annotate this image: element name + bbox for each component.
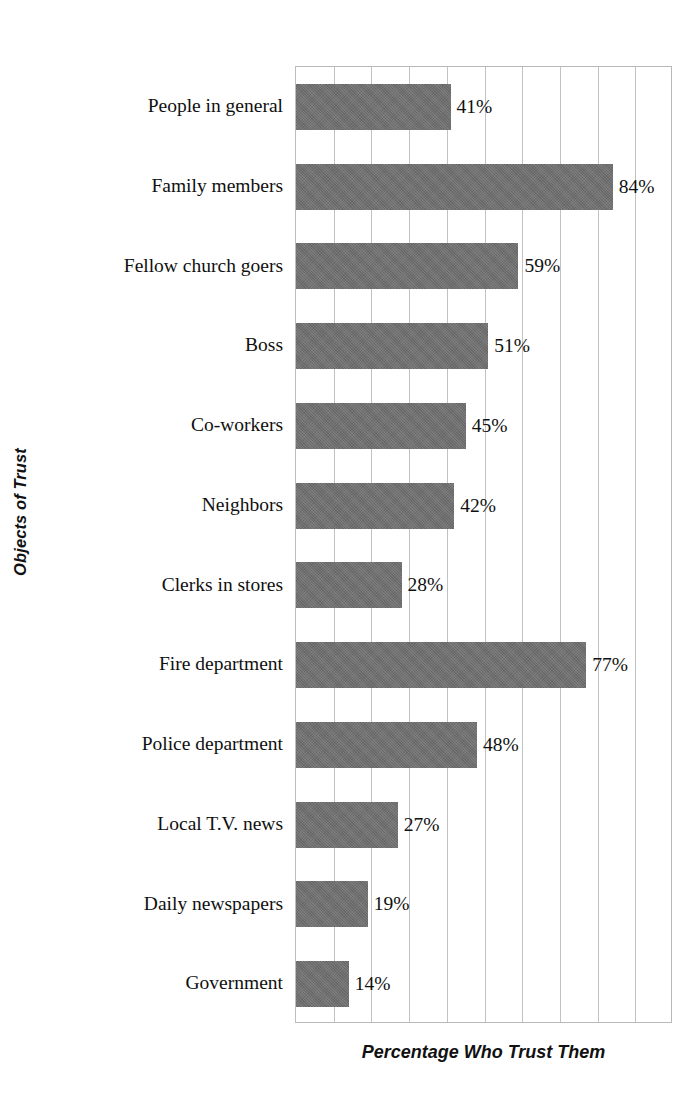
bar-row[interactable]: 28%: [296, 562, 671, 608]
category-label: Family members: [151, 175, 283, 196]
bar[interactable]: [296, 562, 402, 608]
y-axis-title: Objects of Trust: [0, 0, 40, 1098]
gridline: [635, 67, 636, 1022]
category-label: Clerks in stores: [162, 574, 283, 595]
category-label-row: Fire department: [40, 641, 293, 687]
gridline: [371, 67, 372, 1022]
category-label-row: Government: [40, 960, 293, 1006]
bar-value-label: 28%: [402, 574, 444, 596]
bar-row[interactable]: 59%: [296, 243, 671, 289]
category-label: Fire department: [159, 653, 283, 674]
category-label: Government: [186, 972, 283, 993]
plot-area: 41%84%59%51%45%42%28%77%48%27%19%14%: [295, 66, 672, 1023]
gridline: [334, 67, 335, 1022]
bar-row[interactable]: 14%: [296, 961, 671, 1007]
bar-row[interactable]: 51%: [296, 323, 671, 369]
bar[interactable]: [296, 961, 349, 1007]
category-label: Daily newspapers: [144, 893, 283, 914]
category-label-row: Local T.V. news: [40, 801, 293, 847]
gridline: [560, 67, 561, 1022]
bar-row[interactable]: 27%: [296, 802, 671, 848]
bar[interactable]: [296, 802, 398, 848]
category-label-row: Fellow church goers: [40, 242, 293, 288]
y-axis-title-text: Objects of Trust: [11, 448, 30, 576]
bar-row[interactable]: 19%: [296, 881, 671, 927]
bar-row[interactable]: 41%: [296, 84, 671, 130]
gridline: [485, 67, 486, 1022]
category-label: Co-workers: [191, 414, 283, 435]
bar-value-label: 51%: [488, 335, 530, 357]
category-label-row: Police department: [40, 721, 293, 767]
bar[interactable]: [296, 84, 451, 130]
bar[interactable]: [296, 483, 454, 529]
bar[interactable]: [296, 403, 466, 449]
bar-value-label: 41%: [451, 96, 493, 118]
category-label: Neighbors: [202, 494, 283, 515]
bar[interactable]: [296, 881, 368, 927]
bar-row[interactable]: 42%: [296, 483, 671, 529]
x-axis-title: Percentage Who Trust Them: [295, 1042, 672, 1063]
bar-value-label: 45%: [466, 415, 508, 437]
gridline: [447, 67, 448, 1022]
bar-chart-figure: Objects of Trust People in generalFamily…: [0, 0, 695, 1098]
gridline: [409, 67, 410, 1022]
bar-value-label: 19%: [368, 893, 410, 915]
bar-value-label: 84%: [613, 176, 655, 198]
category-label-row: People in general: [40, 83, 293, 129]
category-label: Police department: [142, 733, 283, 754]
bar[interactable]: [296, 243, 518, 289]
category-label: People in general: [148, 95, 283, 116]
category-label: Fellow church goers: [124, 255, 283, 276]
bar-value-label: 14%: [349, 973, 391, 995]
bar-row[interactable]: 45%: [296, 403, 671, 449]
bar-value-label: 42%: [454, 495, 496, 517]
bar-row[interactable]: 84%: [296, 164, 671, 210]
bar-row[interactable]: 48%: [296, 722, 671, 768]
category-label-row: Family members: [40, 163, 293, 209]
category-label-column: People in generalFamily membersFellow ch…: [40, 66, 293, 1023]
bar[interactable]: [296, 722, 477, 768]
gridline: [522, 67, 523, 1022]
bar[interactable]: [296, 164, 613, 210]
category-label-row: Neighbors: [40, 482, 293, 528]
bar[interactable]: [296, 642, 586, 688]
bar-value-label: 77%: [586, 654, 628, 676]
category-label-row: Co-workers: [40, 402, 293, 448]
bar-value-label: 48%: [477, 734, 519, 756]
category-label: Local T.V. news: [157, 813, 283, 834]
category-label-row: Daily newspapers: [40, 880, 293, 926]
bar[interactable]: [296, 323, 488, 369]
bar-row[interactable]: 77%: [296, 642, 671, 688]
category-label-row: Boss: [40, 322, 293, 368]
category-label-row: Clerks in stores: [40, 561, 293, 607]
bar-value-label: 59%: [518, 255, 560, 277]
category-label: Boss: [245, 334, 283, 355]
bar-value-label: 27%: [398, 814, 440, 836]
gridline: [598, 67, 599, 1022]
